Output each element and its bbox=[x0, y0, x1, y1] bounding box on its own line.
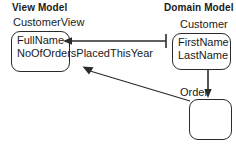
connector-layer bbox=[0, 0, 236, 148]
connector-customer-to-fullname[interactable] bbox=[63, 34, 166, 48]
arrowhead-icon bbox=[83, 67, 94, 75]
diagram-canvas: View Model Domain Model CustomerView Ful… bbox=[0, 0, 236, 148]
connector-order-to-noofordersplacedthisyear[interactable] bbox=[83, 67, 191, 102]
arrowhead-icon bbox=[204, 89, 211, 98]
arrowhead-icon bbox=[63, 37, 72, 45]
connector-line bbox=[90, 71, 190, 101]
connector-customer-to-order[interactable] bbox=[204, 70, 211, 98]
